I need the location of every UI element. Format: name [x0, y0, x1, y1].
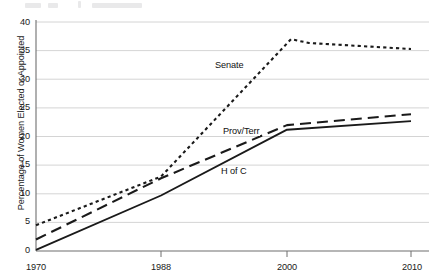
- plot-area: [0, 0, 434, 279]
- series-label-prov-terr: Prov/Terr: [222, 126, 260, 136]
- series-line-h-of-c: [36, 121, 411, 250]
- gridlines: [36, 22, 429, 222]
- series-label-h-of-c: H of C: [220, 166, 247, 176]
- series-label-senate: Senate: [214, 60, 245, 70]
- chart-figure: Percentage of Women Elected or Appointed…: [0, 0, 434, 279]
- x-tick-marks: [161, 251, 411, 257]
